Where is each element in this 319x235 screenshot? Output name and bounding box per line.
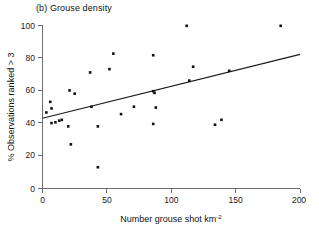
regression-line — [43, 54, 301, 118]
data-point — [152, 123, 155, 126]
y-tick-label-20: 20 — [26, 150, 36, 160]
data-point — [112, 52, 115, 55]
x-axis-ticks — [43, 189, 301, 194]
data-point — [58, 119, 61, 122]
data-point — [192, 65, 195, 68]
data-point — [50, 122, 53, 125]
data-point — [73, 92, 76, 95]
data-point — [67, 125, 70, 128]
y-axis-title: % Observations ranked > 3 — [6, 53, 16, 162]
x-tick-label-200: 200 — [292, 195, 306, 205]
data-point — [97, 125, 100, 128]
data-point — [185, 25, 188, 28]
data-point — [155, 106, 158, 109]
data-point — [188, 79, 191, 82]
figure-panel-b: (b) Grouse density 100 80 60 40 20 0 — [0, 0, 319, 235]
x-tick-label-50: 50 — [102, 195, 112, 205]
data-point — [279, 25, 282, 28]
data-point — [214, 123, 217, 126]
y-tick-label-40: 40 — [26, 118, 36, 128]
data-point — [120, 113, 123, 116]
data-point — [54, 121, 57, 124]
data-points-layer — [45, 25, 282, 169]
x-tick-label-100: 100 — [164, 195, 178, 205]
data-point — [97, 166, 100, 169]
data-point — [133, 105, 136, 108]
y-tick-label-100: 100 — [21, 21, 35, 31]
data-point — [50, 107, 53, 110]
data-point — [70, 143, 73, 146]
data-point — [108, 68, 111, 71]
data-point — [228, 69, 231, 72]
x-axis-title-superscript: -2 — [216, 214, 222, 220]
x-tick-label-150: 150 — [229, 195, 243, 205]
scatter-plot: 100 80 60 40 20 0 0 50 100 150 200 Numbe… — [0, 0, 319, 235]
x-axis-title: Number grouse shot km-2 — [120, 214, 222, 225]
x-tick-label-0: 0 — [40, 195, 45, 205]
data-point — [220, 119, 223, 122]
data-point — [153, 92, 156, 95]
data-point — [61, 119, 64, 122]
data-point — [68, 89, 71, 92]
data-point — [49, 101, 52, 104]
data-point — [152, 54, 155, 57]
data-point — [90, 105, 93, 108]
y-tick-label-80: 80 — [26, 53, 36, 63]
y-tick-label-60: 60 — [26, 85, 36, 95]
y-axis-ticks — [38, 26, 43, 189]
data-point — [45, 111, 48, 114]
x-axis-title-text: Number grouse shot km — [120, 214, 216, 224]
y-tick-label-0: 0 — [30, 184, 35, 194]
data-point — [89, 71, 92, 74]
